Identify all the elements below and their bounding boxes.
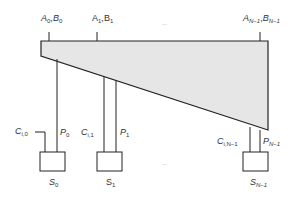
sum-cell-n xyxy=(243,152,268,171)
c0-wire xyxy=(35,132,45,152)
prop-label-n: PN−1 xyxy=(263,137,280,147)
carry-label-n: Ci,N−1 xyxy=(217,137,238,147)
sum-label-n: SN−1 xyxy=(250,178,267,188)
input-label-n: AN−1,BN−1 xyxy=(243,14,280,24)
input-label-0: A0,B0 xyxy=(41,14,62,24)
ellipsis-bottom: ... xyxy=(162,160,167,166)
carry-network-block xyxy=(41,41,268,130)
prop-label-1: P1 xyxy=(120,128,129,138)
sum-label-1: S1 xyxy=(106,178,115,188)
prop-label-0: P0 xyxy=(60,128,69,138)
sum-label-0: S0 xyxy=(49,178,58,188)
carry-label-1: Ci,1 xyxy=(81,128,94,138)
sum-cell-0 xyxy=(40,152,65,171)
diagram-canvas xyxy=(0,0,299,199)
input-label-1: A1,B1 xyxy=(92,14,113,24)
carry-label-0: Ci,0 xyxy=(15,127,28,137)
sum-cell-1 xyxy=(97,152,122,171)
ellipsis-top: ... xyxy=(162,20,167,26)
